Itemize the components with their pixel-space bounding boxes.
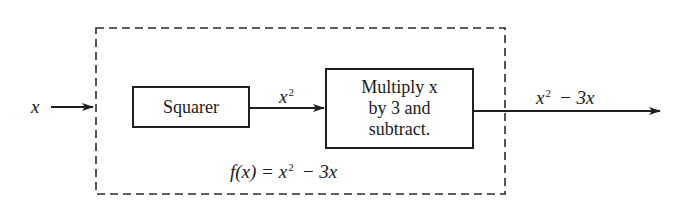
function-label-rest: − 3x — [302, 161, 338, 182]
function-label-exp: 2 — [288, 161, 294, 173]
multiply-label: Multiply x by 3 and subtract. — [361, 77, 438, 140]
squarer-block: Squarer — [132, 86, 250, 128]
multiply-line-3: subtract. — [361, 119, 438, 140]
intermediate-label-exp: 2 — [288, 86, 294, 98]
input-label: x — [31, 97, 39, 116]
multiply-line-1: Multiply x — [361, 77, 438, 98]
intermediate-label-base: x — [279, 86, 287, 107]
output-label-base: x — [536, 87, 544, 108]
multiply-block: Multiply x by 3 and subtract. — [325, 68, 474, 149]
output-label-rest: − 3x — [559, 87, 595, 108]
squarer-label: Squarer — [163, 97, 219, 118]
output-label-exp: 2 — [545, 87, 551, 99]
multiply-line-1-text: Multiply x — [361, 77, 438, 97]
multiply-line-2: by 3 and — [361, 98, 438, 119]
output-label: x2− 3x — [536, 88, 594, 107]
function-label: f(x) = x2− 3x — [230, 162, 337, 181]
function-label-prefix: f(x) = x — [230, 161, 287, 182]
intermediate-label: x2 — [279, 87, 294, 106]
function-machine-diagram: x Squarer x2 Multiply x by 3 and subtrac… — [0, 0, 689, 222]
